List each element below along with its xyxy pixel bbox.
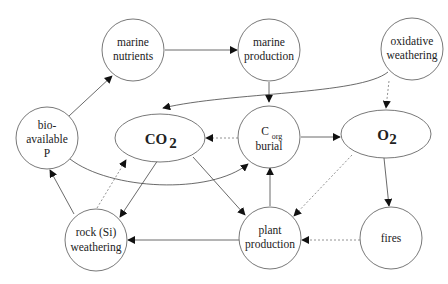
edge-co2-to-rock-weathering (120, 157, 160, 217)
node-label-line3: P (44, 147, 50, 159)
edge-co2-to-plant-production (193, 157, 245, 215)
node-shape (238, 106, 300, 168)
edge-rock-weathering-to-bioavailable-p (50, 170, 74, 214)
node-label-main: CO (145, 131, 168, 147)
node-oxidative-weathering: oxidative weathering (381, 18, 443, 80)
edge-bioavailable-p-to-corg-burial (70, 159, 248, 185)
node-label-main: C (261, 125, 269, 137)
node-label-line1: marine (253, 36, 285, 48)
node-label-line2: production (245, 238, 295, 251)
node-marine-production: marine production (238, 19, 300, 81)
node-corg-burial: C org burial (238, 106, 300, 168)
node-label-line2: weathering (70, 241, 121, 254)
node-label-line2: available (26, 133, 68, 145)
node-o2: O 2 (341, 110, 431, 158)
node-label-line1: fires (381, 232, 402, 244)
node-label-subscript: 2 (389, 131, 397, 147)
node-shape (65, 209, 127, 271)
edge-rock-weathering-to-co2 (97, 160, 126, 208)
node-label-line1: oxidative (391, 35, 434, 47)
node-label-line1: bio- (38, 119, 57, 131)
node-label-main: O (377, 127, 389, 143)
edge-o2-to-plant-production (294, 155, 352, 216)
node-label-line2: burial (256, 140, 283, 152)
edge-oxidative-weathering-to-o2 (386, 81, 389, 108)
diagram-svg: marine nutrients marine production oxida… (0, 0, 448, 284)
edge-bioavailable-p-to-marine-nutrients (69, 76, 112, 116)
diagram-canvas: marine nutrients marine production oxida… (0, 0, 448, 284)
node-plant-production: plant production (239, 207, 301, 269)
node-label-line2: nutrients (113, 50, 154, 62)
node-rock-weathering: rock (Si) weathering (65, 209, 127, 271)
node-marine-nutrients: marine nutrients (102, 19, 164, 81)
node-label-line2: production (244, 50, 294, 63)
node-bioavailable-p: bio- available P (16, 107, 78, 169)
node-label-line1: rock (Si) (76, 226, 117, 239)
node-label-line1: marine (117, 36, 149, 48)
node-co2: CO 2 (115, 114, 205, 162)
node-fires: fires (360, 207, 422, 269)
node-label-line1: plant (259, 224, 283, 237)
edge-o2-to-fires (384, 158, 389, 206)
node-label-line2: weathering (386, 49, 437, 62)
node-label-subscript: 2 (169, 135, 177, 151)
